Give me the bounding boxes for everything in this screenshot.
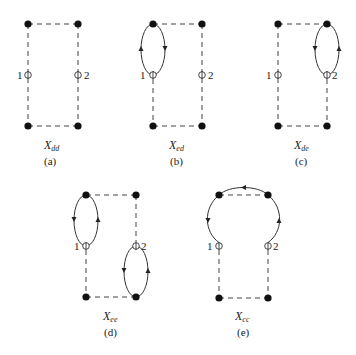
arrow-down-icon [72,217,77,222]
vertex-dot-icon [198,20,205,27]
node-label-2: 2 [332,69,338,81]
vertex-dot-icon [274,20,281,27]
arrow-left-icon [241,185,246,190]
arrow-down-icon [122,268,127,273]
vertex-dot-icon [215,294,222,301]
vertex-dot-icon [24,20,31,27]
diagram-name: Xde [293,138,309,153]
node-label-2: 2 [84,69,90,81]
diagram-caption: (c) [295,155,308,168]
diagram-caption: (a) [44,155,57,168]
node-label-1: 1 [74,240,80,252]
vertex-dot-icon [323,122,330,129]
diagram-name: Xee [102,309,118,324]
diagram-caption: (d) [104,326,117,339]
diagram-a: 1 2 Xdd (a) [17,20,90,168]
node-label-1: 1 [207,240,213,252]
fermion-loop [315,24,339,75]
node-label-1: 1 [17,69,23,81]
vertex-dot-icon [82,191,89,198]
vertex-dot-icon [82,293,89,300]
feynman-diagram-figure: 1 2 Xdd (a) 1 2 Xed (b) [0,0,356,355]
arrow-up-icon [96,217,101,222]
diagram-caption: (e) [237,326,250,339]
node-label-2: 2 [273,240,279,252]
vertex-dot-icon [323,20,330,27]
arrow-up-icon [337,46,342,51]
diagram-name: Xdd [43,138,60,153]
node-label-1: 1 [140,69,146,81]
vertex-dot-icon [24,122,31,129]
arrow-down-icon [139,46,144,51]
arrow-down-icon [206,218,211,223]
diagram-caption: (b) [170,155,183,168]
vertex-dot-icon [264,294,271,301]
vertex-dot-icon [215,191,222,198]
diagram-b: 1 2 Xed (b) [139,20,214,168]
arrow-up-icon [277,218,282,223]
diagram-d: 1 2 Xee (d) [72,191,151,339]
diagram-c: 1 2 Xde (c) [266,20,342,168]
arrow-up-icon [163,46,168,51]
vertex-dot-icon [274,122,281,129]
fermion-loop-left [74,195,98,246]
vertex-dot-icon [149,122,156,129]
diagram-name: Xed [168,138,185,153]
fermion-loop-right [124,246,148,297]
vertex-dot-icon [74,20,81,27]
vertex-dot-icon [132,191,139,198]
node-label-2: 2 [208,69,214,81]
node-label-1: 1 [266,69,272,81]
arrow-down-icon [313,46,318,51]
arrow-up-icon [146,268,151,273]
vertex-dot-icon [264,191,271,198]
diagram-e: 1 2 Xcc (e) [206,185,282,339]
vertex-dot-icon [132,293,139,300]
vertex-dot-icon [149,20,156,27]
diagram-name: Xcc [234,309,250,324]
vertex-dot-icon [198,122,205,129]
node-label-2: 2 [141,240,147,252]
fermion-loop [141,24,165,75]
vertex-dot-icon [74,122,81,129]
